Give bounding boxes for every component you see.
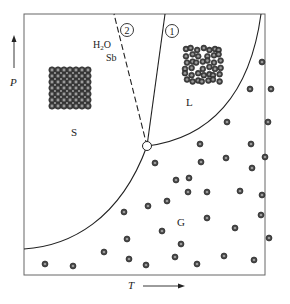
gas-particle [268,86,274,92]
liquid-particle [207,64,213,70]
gas-particle [172,254,178,260]
y-axis-indicator: P [9,35,17,88]
solid-particle [67,67,73,73]
gas-particle [194,261,200,267]
gas-particle [249,165,255,171]
solid-particle [61,85,67,91]
solid-particle [67,73,73,79]
gas-particle [185,189,191,195]
liquid-particle [199,79,205,85]
x-axis-indicator: T [128,279,185,291]
curve-marker-2: 2 [121,24,134,37]
solid-particle [61,73,67,79]
sublimation-curve [24,146,147,249]
solid-particle [79,97,85,103]
gas-particle [186,175,192,181]
solid-particle [67,79,73,85]
marker-2-label: 2 [125,25,130,36]
solid-particle [67,103,73,109]
solid-particle [49,79,55,85]
liquid-particle [201,72,207,78]
solid-particle [73,91,79,97]
liquid-particle [188,45,194,51]
phase-diagram: 2 1 H2O Sb S L G P T [0,0,290,304]
solid-particle [85,67,91,73]
liquid-particle [218,65,224,71]
liquid-particle [195,53,201,59]
gas-particle [121,209,127,215]
solid-particle [67,97,73,103]
y-axis-label: P [9,76,17,88]
solid-particle [55,79,61,85]
liquid-particle [200,66,206,72]
liquid-particle [182,70,188,76]
gas-particle [224,119,230,125]
gas-particle [164,198,170,204]
liquid-particle [183,53,189,59]
note-sb: Sb [106,52,117,63]
solid-particle [73,103,79,109]
gas-particle [152,160,158,166]
triple-point [143,142,152,151]
solid-particle [49,67,55,73]
gas-particle [221,253,227,259]
solid-particle [61,79,67,85]
liquid-particle [217,79,223,85]
gas-particle [124,236,130,242]
gas-particle [159,228,165,234]
gas-particle [232,225,238,231]
region-label-gas: G [177,216,185,228]
gas-particle [198,159,204,165]
solid-particle [55,97,61,103]
gas-particle [197,141,203,147]
solid-particle [49,91,55,97]
solid-particle [85,91,91,97]
region-label-solid: S [71,126,77,138]
solid-particle [85,103,91,109]
liquid-particle [184,77,190,83]
gas-particle [101,249,107,255]
gas-particle [204,189,210,195]
solid-particle [61,97,67,103]
solid-particle [79,91,85,97]
solid-particle [55,103,61,109]
gas-particle [262,154,268,160]
solid-particle [49,73,55,79]
gas-particle [173,177,179,183]
liquid-cluster [182,45,223,84]
liquid-particle [205,58,211,64]
marker-1-label: 1 [170,26,175,37]
solid-particle [73,79,79,85]
x-axis-label: T [128,279,135,291]
gas-particle [258,212,264,218]
gas-particle [247,86,253,92]
solid-particle [49,85,55,91]
solid-particle [85,85,91,91]
liquid-particle [189,65,195,71]
liquid-particle [190,79,196,85]
gas-particle [248,141,254,147]
solid-particle [79,73,85,79]
solid-particle [85,73,91,79]
gas-particle [70,263,76,269]
solid-particle [67,91,73,97]
solid-particle [55,85,61,91]
gas-particle [42,261,48,267]
solid-particle [73,85,79,91]
solid-particle [55,73,61,79]
solid-particle [55,67,61,73]
arrow-up-icon [12,35,17,42]
liquid-particle [201,45,207,51]
solid-particle [73,67,79,73]
liquid-particle [218,58,224,64]
solid-particle [49,97,55,103]
solid-particle [85,79,91,85]
solid-particle [61,103,67,109]
liquid-particle [195,70,201,76]
curve-marker-1: 1 [166,25,179,38]
liquid-particle [210,77,216,83]
arrow-right-icon [178,284,185,289]
gas-particle [145,203,151,209]
solid-particle [73,97,79,103]
gas-particle [223,155,229,161]
